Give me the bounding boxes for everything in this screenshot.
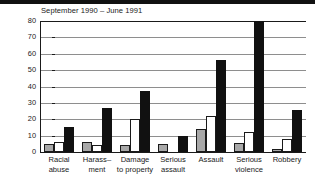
bar (44, 144, 54, 152)
bar (64, 127, 74, 152)
y-tick-label-30: 30 (28, 99, 36, 107)
header-rule (0, 0, 315, 4)
bar (244, 132, 254, 152)
bar (82, 142, 92, 152)
bar (102, 108, 112, 152)
y-tick-label-60: 60 (28, 50, 36, 58)
bar (120, 145, 130, 152)
y-tick-label-40: 40 (28, 83, 36, 91)
bar (272, 149, 282, 152)
bar (54, 142, 64, 152)
bar (234, 143, 244, 152)
bar (206, 116, 216, 152)
bar (140, 91, 150, 152)
bar (196, 129, 206, 152)
y-tick-label-70: 70 (28, 33, 36, 41)
chart-title: September 1990 – June 1991 (41, 6, 142, 15)
bar (292, 110, 302, 152)
x-axis-line (40, 152, 306, 153)
bar (282, 139, 292, 152)
bar (254, 21, 264, 152)
bar (178, 136, 188, 152)
y-tick-label-20: 20 (28, 115, 36, 123)
bar (216, 60, 226, 152)
y-tick-label-50: 50 (28, 66, 36, 74)
bar (158, 144, 168, 152)
bar (130, 119, 140, 152)
y-tick-label-80: 80 (28, 17, 36, 25)
chart-figure: September 1990 – June 1991 0102030405060… (0, 0, 315, 191)
x-axis-category-labels: RacialabuseHarass–mentDamageto propertyS… (40, 155, 306, 189)
bar (92, 145, 102, 152)
bars-group (40, 21, 306, 152)
category-label: Robbery (261, 155, 313, 165)
y-tick-label-10: 10 (28, 132, 36, 140)
